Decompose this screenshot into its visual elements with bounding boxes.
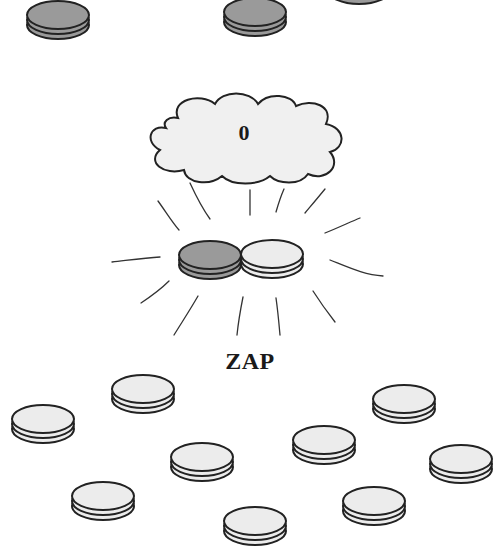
zapping-coin-pair <box>179 240 303 279</box>
dark-coin-icon <box>27 1 89 39</box>
bottom-scattered-coins <box>12 375 492 545</box>
light-coin-icon <box>171 443 233 481</box>
light-coin-icon <box>430 445 492 483</box>
zap-caption: ZAP <box>200 348 300 375</box>
light-coin-icon <box>72 482 134 520</box>
dark-coin-icon <box>328 0 390 4</box>
top-row-coins <box>27 0 390 39</box>
diagram-canvas <box>0 0 504 550</box>
light-coin-icon <box>112 375 174 413</box>
dark-coin-icon <box>224 0 286 36</box>
light-coin-icon <box>241 240 303 278</box>
light-coin-icon <box>12 405 74 443</box>
light-coin-icon <box>293 426 355 464</box>
light-coin-icon <box>373 385 435 423</box>
light-coin-icon <box>343 487 405 525</box>
light-coin-icon <box>224 507 286 545</box>
cloud-count-label: 0 <box>224 120 264 146</box>
dark-coin-icon <box>179 241 241 279</box>
